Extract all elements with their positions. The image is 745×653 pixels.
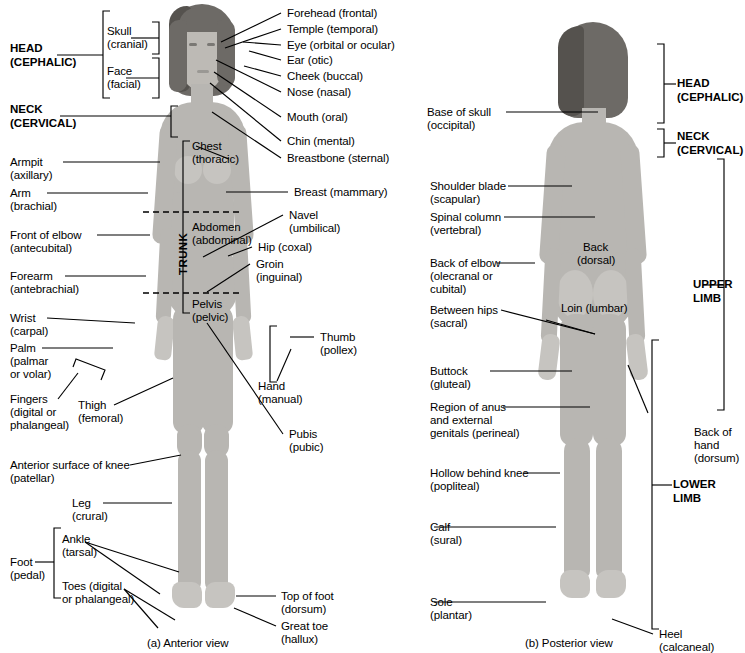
posterior-right-foot <box>596 570 626 598</box>
anterior-right-eye <box>207 43 215 46</box>
anterior-left-leg <box>178 450 201 590</box>
anterior-pubis-sublabel: (pubic) <box>289 441 323 454</box>
posterior-perineal-sublabel2: genitals (perineal) <box>430 427 520 440</box>
anterior-right-leg <box>205 450 228 590</box>
anterior-hair-left-lock <box>169 20 187 92</box>
anterior-skull-sublabel: (cranial) <box>107 38 148 51</box>
posterior-heel-label: Heel <box>659 628 682 641</box>
posterior-back-of-elbow-label: Back of elbow <box>430 257 500 270</box>
anterior-face-sublabel: (facial) <box>107 78 141 91</box>
posterior-left-foot <box>560 570 590 598</box>
anterior-ankle-sublabel: (tarsal) <box>62 546 97 559</box>
anterior-fingers-label: Fingers <box>10 393 48 406</box>
posterior-neck-label: NECK <box>677 130 710 143</box>
anterior-groin-label: Groin <box>256 258 284 271</box>
anterior-abdomen-sublabel: (abdominal) <box>192 234 252 247</box>
posterior-calf-label: Calf <box>430 521 450 534</box>
anterior-thumb-sublabel: (pollex) <box>320 344 357 357</box>
wrist-leader <box>47 318 135 323</box>
posterior-between-hips-label: Between hips <box>430 304 498 317</box>
anterior-thigh-label: Thigh <box>78 399 106 412</box>
posterior-popliteal-sublabel: (popliteal) <box>430 480 479 493</box>
anterior-palm-sublabel2: or volar) <box>10 368 51 381</box>
posterior-right-hand <box>625 333 648 381</box>
posterior-back-of-hand-label: Back of <box>694 426 732 439</box>
anterior-face-label: Face <box>107 65 132 78</box>
anterior-right-hand <box>232 315 254 361</box>
anterior-temple-label: Temple (temporal) <box>287 23 378 36</box>
anterior-toes-sublabel: or phalangeal) <box>62 593 134 606</box>
posterior-popliteal-label: Hollow behind knee <box>430 467 529 480</box>
anterior-right-foot <box>205 582 235 608</box>
posterior-sole-sublabel: (plantar) <box>430 609 472 622</box>
posterior-view-caption: (b) Posterior view <box>525 637 613 650</box>
anterior-front-of-elbow-label: Front of elbow <box>10 229 81 242</box>
anterior-palm-sublabel: (palmar <box>10 355 48 368</box>
anterior-thigh-sublabel: (femoral) <box>78 412 123 425</box>
posterior-back-of-hand-sublabel2: (dorsum) <box>694 452 739 465</box>
posterior-left-hand <box>537 333 560 381</box>
anterior-nose-label: Nose (nasal) <box>287 86 351 99</box>
anterior-forehead-label: Forehead (frontal) <box>287 7 377 20</box>
anterior-ankle-label: Ankle <box>62 533 90 546</box>
anterior-navel-label: Navel <box>289 209 318 222</box>
anterior-mouth-label: Mouth (oral) <box>287 111 348 124</box>
anterior-neck-sublabel: (CERVICAL) <box>10 117 76 130</box>
posterior-hair-shadow <box>558 26 584 116</box>
posterior-buttock-label: Buttock <box>430 365 468 378</box>
anterior-front-of-elbow-sublabel: (antecubital) <box>10 242 72 255</box>
anterior-left-foot <box>172 582 202 608</box>
anterior-neck-label: NECK <box>10 103 43 116</box>
anterior-leg-label: Leg <box>72 497 91 510</box>
anterior-chin-label: Chin (mental) <box>287 135 355 148</box>
posterior-base-of-skull-sublabel: (occipital) <box>427 119 475 132</box>
anterior-navel-sublabel: (umbilical) <box>289 222 340 235</box>
posterior-shoulder-blade-sublabel: (scapular) <box>430 193 480 206</box>
anterior-ear-label: Ear (otic) <box>287 54 333 67</box>
anterior-breast-label: Breast (mammary) <box>294 186 388 199</box>
posterior-perineal-label: Region of anus <box>430 401 506 414</box>
anterior-head-label: HEAD <box>10 42 43 55</box>
anatomy-figure: HEAD (CEPHALIC) NECK (CERVICAL) Skull (c… <box>0 0 745 653</box>
anterior-view-caption: (a) Anterior view <box>147 637 228 650</box>
posterior-shoulder-blade-label: Shoulder blade <box>430 180 506 193</box>
posterior-back-sublabel: (dorsal) <box>577 254 615 267</box>
anterior-armpit-label: Armpit <box>10 156 43 169</box>
posterior-head-sublabel: (CEPHALIC) <box>677 91 743 104</box>
anterior-thumb-label: Thumb <box>320 331 355 344</box>
anterior-hip-label: Hip (coxal) <box>258 241 312 254</box>
posterior-right-calf <box>596 438 622 578</box>
posterior-spinal-column-sublabel: (vertebral) <box>430 224 481 237</box>
posterior-between-hips-sublabel: (sacral) <box>430 317 468 330</box>
anterior-skull-label: Skull <box>107 25 131 38</box>
posterior-head-label: HEAD <box>677 77 710 90</box>
posterior-calf-sublabel: (sural) <box>430 534 462 547</box>
anterior-top-of-foot-sublabel: (dorsum) <box>281 603 326 616</box>
anterior-great-toe-sublabel: (hallux) <box>281 633 318 646</box>
anterior-fingers-sublabel2: phalangeal) <box>10 419 69 432</box>
anterior-pubis-label: Pubis <box>289 428 317 441</box>
anterior-pelvis-sublabel: (pelvic) <box>192 311 228 324</box>
posterior-lower-limb-label: LOWER <box>673 478 716 491</box>
posterior-neck-sublabel: (CERVICAL) <box>677 144 743 157</box>
anterior-hand-label: Hand <box>258 380 285 393</box>
posterior-perineal-sublabel: and external <box>430 414 492 427</box>
anterior-top-of-foot-label: Top of foot <box>281 590 334 603</box>
anterior-breastbone-label: Breastbone (sternal) <box>287 152 389 165</box>
anterior-wrist-label: Wrist <box>10 312 35 325</box>
anterior-eye-label: Eye (orbital or ocular) <box>287 39 395 52</box>
anterior-arm-label: Arm <box>10 187 31 200</box>
posterior-spinal-column-label: Spinal column <box>430 211 501 224</box>
anterior-foot-sublabel: (pedal) <box>10 569 45 582</box>
anterior-hair-right-lock <box>217 20 235 86</box>
anterior-forearm-label: Forearm <box>10 270 53 283</box>
posterior-right-thigh <box>593 314 626 446</box>
posterior-upper-limb-label: UPPER <box>693 278 733 291</box>
posterior-sole-label: Sole <box>430 596 453 609</box>
posterior-lower-limb-sublabel: LIMB <box>673 492 701 505</box>
anterior-great-toe-label: Great toe <box>281 620 328 633</box>
posterior-buttock-sublabel: (gluteal) <box>430 378 471 391</box>
anterior-chest-sublabel: (thoracic) <box>192 153 239 166</box>
posterior-back-label: Back <box>583 241 608 254</box>
anterior-knee-label: Anterior surface of knee <box>10 459 130 472</box>
